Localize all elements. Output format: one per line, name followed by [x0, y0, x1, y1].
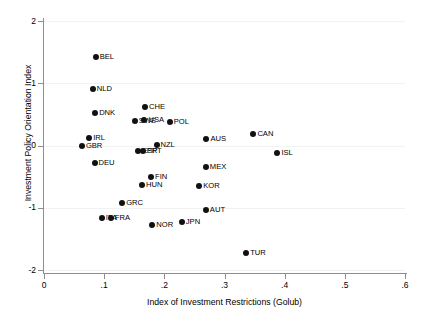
y-axis-tick-label: 1	[6, 79, 36, 88]
data-point-label: HUN	[146, 181, 162, 189]
y-axis-tick-label: -2	[6, 266, 36, 275]
data-point-label: AUT	[210, 206, 225, 214]
y-axis-tick-label: 2	[6, 17, 36, 26]
data-point	[179, 219, 185, 225]
data-point	[203, 207, 209, 213]
data-point-label: GBR	[86, 142, 102, 150]
x-axis-tick	[405, 274, 406, 279]
x-axis-tick-label: .1	[92, 281, 116, 290]
data-point	[142, 104, 148, 110]
data-point	[99, 215, 105, 221]
x-axis-tick	[164, 274, 165, 279]
data-point-label: USA	[148, 116, 164, 124]
y-axis-tick-label: -1	[6, 203, 36, 212]
data-point-label: ISL	[281, 149, 292, 157]
data-point-label: AUS	[210, 135, 226, 143]
data-point	[132, 118, 138, 124]
data-point-label: DEU	[99, 159, 115, 167]
data-point	[149, 222, 155, 228]
data-point-label: JPN	[186, 218, 200, 226]
x-axis-tick	[225, 274, 226, 279]
x-axis-tick	[345, 274, 346, 279]
y-axis-tick	[38, 270, 43, 271]
data-point	[243, 250, 249, 256]
x-axis-tick	[285, 274, 286, 279]
x-axis-tick-label: .6	[393, 281, 417, 290]
y-axis-tick	[38, 83, 43, 84]
y-axis-tick-label: 0	[6, 141, 36, 150]
data-point-label: FRA	[115, 214, 130, 222]
data-point-label: BEL	[100, 53, 114, 61]
data-point	[274, 150, 280, 156]
data-point	[139, 182, 145, 188]
data-point	[140, 148, 146, 154]
data-point-label: NOR	[156, 221, 173, 229]
gridline-y	[44, 21, 405, 22]
x-axis-tick-label: .5	[333, 281, 357, 290]
y-axis-tick	[38, 21, 43, 22]
data-point-label: CAN	[257, 130, 273, 138]
data-point-label: PRT	[147, 147, 162, 155]
y-axis-tick	[38, 208, 43, 209]
data-point	[167, 119, 173, 125]
data-point	[250, 131, 256, 137]
data-point-label: TUR	[250, 249, 266, 257]
x-axis-tick	[104, 274, 105, 279]
data-point	[90, 86, 96, 92]
data-point	[93, 54, 99, 60]
data-point-label: MEX	[210, 163, 226, 171]
data-point	[92, 110, 98, 116]
data-point-label: DNK	[99, 109, 115, 117]
x-axis-tick-label: .4	[273, 281, 297, 290]
plot-area: BELNLDCHEDNKSWEUSAPOLCANIRLAUSGBRNZLESPP…	[44, 21, 405, 270]
x-axis-tick-label: 0	[32, 281, 56, 290]
data-point-label: NZL	[161, 141, 175, 149]
x-axis-tick	[44, 274, 45, 279]
y-axis-line	[43, 18, 44, 273]
data-point	[79, 143, 85, 149]
data-point-label: CHE	[149, 103, 165, 111]
x-axis-tick-label: .2	[152, 281, 176, 290]
data-point	[119, 200, 125, 206]
y-axis-tick	[38, 146, 43, 147]
x-axis-tick-label: .3	[213, 281, 237, 290]
gridline-y	[44, 270, 405, 271]
data-point	[148, 174, 154, 180]
scatter-chart-figure: BELNLDCHEDNKSWEUSAPOLCANIRLAUSGBRNZLESPP…	[0, 0, 426, 317]
data-point-label: GRC	[126, 199, 143, 207]
data-point	[203, 164, 209, 170]
data-point-label: NLD	[97, 85, 112, 93]
data-point	[92, 160, 98, 166]
x-axis-title: Index of Investment Restrictions (Golub)	[44, 297, 405, 307]
data-point	[203, 136, 209, 142]
data-point-label: POL	[174, 118, 189, 126]
data-point	[196, 183, 202, 189]
data-point-label: KOR	[203, 182, 219, 190]
